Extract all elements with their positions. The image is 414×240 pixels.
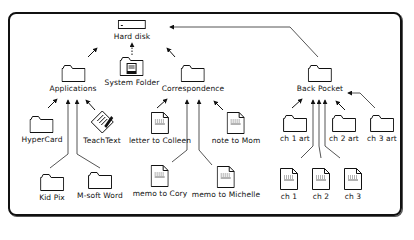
folder-icon [332, 114, 356, 132]
document-icon [344, 168, 362, 190]
document-icon [312, 168, 330, 190]
node-label: ch 3 art [367, 134, 397, 143]
node-label: ch 3 [345, 192, 361, 201]
node-memo-to-michelle[interactable]: memo to Michelle [192, 166, 261, 199]
folder-icon [40, 173, 64, 191]
node-label: Hard disk [114, 32, 150, 41]
node-hypercard[interactable]: HyperCard [22, 115, 63, 144]
node-back-pocket[interactable]: Back Pocket [297, 64, 343, 93]
node-teachtext[interactable]: TeachText [83, 110, 120, 145]
folder-icon [181, 64, 205, 82]
node-label: M-soft Word [77, 191, 123, 200]
folder-icon [308, 64, 332, 82]
node-applications[interactable]: Applications [49, 64, 96, 93]
node-label: System Folder [105, 78, 160, 87]
folder-icon [370, 114, 394, 132]
node-note-to-mom[interactable]: note to Mom [212, 112, 261, 145]
document-icon [227, 112, 245, 134]
node-label: memo to Cory [133, 189, 188, 198]
folder-icon [61, 64, 85, 82]
node-ch2[interactable]: ch 2 [312, 168, 330, 201]
teachtext-app-icon [90, 110, 114, 134]
node-correspondence[interactable]: Correspondence [162, 64, 225, 93]
node-label: TeachText [83, 136, 120, 145]
node-memo-to-cory[interactable]: memo to Cory [133, 165, 188, 198]
node-ch3-art[interactable]: ch 3 art [367, 114, 397, 143]
node-hard-disk[interactable]: Hard disk [114, 20, 150, 41]
node-label: ch 2 art [329, 134, 359, 143]
node-label: Correspondence [162, 84, 225, 93]
folder-icon [283, 114, 307, 132]
node-label: letter to Colleen [129, 136, 191, 145]
node-kid-pix[interactable]: Kid Pix [39, 173, 65, 202]
node-ch1[interactable]: ch 1 [280, 168, 298, 201]
node-system-folder[interactable]: System Folder [105, 56, 160, 87]
node-label: HyperCard [22, 135, 63, 144]
document-icon [151, 165, 169, 187]
node-label: Kid Pix [39, 193, 65, 202]
node-label: Applications [49, 84, 96, 93]
folder-icon [30, 115, 54, 133]
node-ch3[interactable]: ch 3 [344, 168, 362, 201]
node-label: memo to Michelle [192, 190, 261, 199]
hard-disk-icon [118, 20, 146, 30]
system-folder-icon [120, 56, 144, 76]
document-icon [280, 168, 298, 190]
folder-icon [88, 171, 112, 189]
node-label: ch 1 art [280, 134, 310, 143]
node-label: Back Pocket [297, 84, 343, 93]
node-ch1-art[interactable]: ch 1 art [280, 114, 310, 143]
node-ch2-art[interactable]: ch 2 art [329, 114, 359, 143]
node-letter-to-colleen[interactable]: letter to Colleen [129, 112, 191, 145]
document-icon [151, 112, 169, 134]
node-msoft-word[interactable]: M-soft Word [77, 171, 123, 200]
node-label: note to Mom [212, 136, 261, 145]
document-icon [217, 166, 235, 188]
node-label: ch 1 [281, 192, 297, 201]
node-label: ch 2 [313, 192, 329, 201]
